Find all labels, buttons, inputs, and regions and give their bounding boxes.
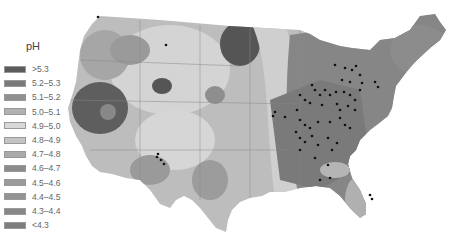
legend-swatch	[4, 165, 26, 172]
legend-label: 5.2–5.3	[32, 78, 60, 88]
legend-swatch	[4, 94, 26, 101]
legend-item: 4.5–4.6	[4, 176, 60, 190]
legend-swatch	[4, 208, 26, 215]
legend-item: <4.3	[4, 218, 49, 232]
legend-label: 4.9–5.0	[32, 121, 60, 131]
legend-item: 5.1–5.2	[4, 90, 60, 104]
legend-label: 4.6–4.7	[32, 163, 60, 173]
legend-label: 4.7–4.8	[32, 149, 60, 159]
legend-item: 4.8–4.9	[4, 133, 60, 147]
legend-label: 5.0–5.1	[32, 107, 60, 117]
legend-swatch	[4, 193, 26, 200]
legend-swatch	[4, 66, 26, 73]
legend-label: <4.3	[32, 220, 49, 230]
legend-title: pH	[26, 40, 40, 52]
legend-swatch	[4, 80, 26, 87]
legend-item: 5.2–5.3	[4, 76, 60, 90]
legend-item: 4.4–4.5	[4, 190, 60, 204]
legend-swatch	[4, 151, 26, 158]
legend-label: 5.1–5.2	[32, 92, 60, 102]
legend-item: 5.0–5.1	[4, 105, 60, 119]
legend-swatch	[4, 122, 26, 129]
legend-item: 4.6–4.7	[4, 161, 60, 175]
legend-swatch	[4, 222, 26, 229]
legend-item: 4.9–5.0	[4, 119, 60, 133]
us-ph-map	[0, 0, 459, 244]
legend-label: 4.3–4.4	[32, 206, 60, 216]
legend-label: >5.3	[32, 64, 49, 74]
legend-swatch	[4, 179, 26, 186]
legend-item: 4.3–4.4	[4, 204, 60, 218]
legend-swatch	[4, 108, 26, 115]
legend-item: >5.3	[4, 62, 49, 76]
legend-label: 4.5–4.6	[32, 178, 60, 188]
legend-label: 4.8–4.9	[32, 135, 60, 145]
legend-item: 4.7–4.8	[4, 147, 60, 161]
legend-swatch	[4, 137, 26, 144]
legend-label: 4.4–4.5	[32, 192, 60, 202]
